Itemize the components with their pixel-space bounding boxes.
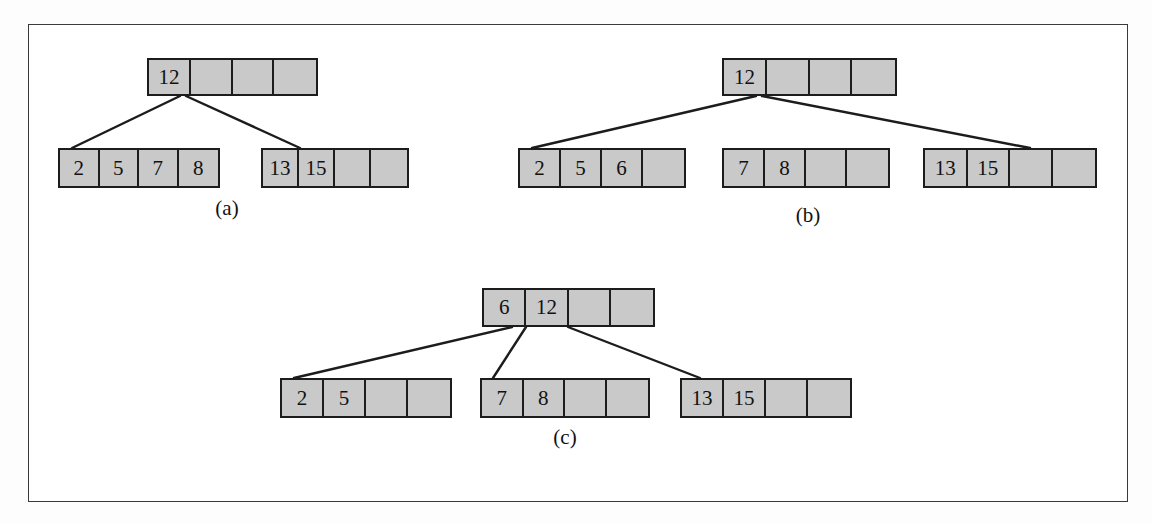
subfigure-label-3: (c) [553,425,576,450]
btree-cell-key-5: 5 [100,150,140,186]
btree-cell-empty [847,150,888,186]
btree-cell-empty [766,380,808,416]
btree-cell-empty [274,60,316,94]
btree-cell-key-13: 13 [682,380,724,416]
btree-cell-empty [767,60,810,94]
btree-cell-key-2: 2 [520,150,561,186]
btree-cell-key-2: 2 [60,150,100,186]
btree-cell-key-15: 15 [968,150,1011,186]
btree-cell-empty [569,290,611,325]
btree-cell-empty [371,150,407,186]
btree-cell-key-7: 7 [139,150,179,186]
btree-cell-empty [335,150,371,186]
btree-cell-key-13: 13 [263,150,299,186]
btree-leaf-node-2-0: 25 [280,378,452,418]
btree-cell-empty [643,150,684,186]
btree-cell-key-6: 6 [484,290,526,325]
btree-cell-key-2: 2 [282,380,324,416]
btree-cell-key-6: 6 [602,150,643,186]
btree-cell-empty [408,380,450,416]
btree-cell-empty [191,60,233,94]
btree-cell-key-8: 8 [179,150,219,186]
btree-cell-empty [810,60,853,94]
btree-cell-empty [565,380,607,416]
btree-cell-empty [1053,150,1096,186]
btree-leaf-node-0-1: 1315 [261,148,409,188]
btree-cell-key-12: 12 [724,60,767,94]
btree-figure: 12257813151225678131561225781315 (a)(b)(… [0,0,1152,524]
btree-cell-empty [607,380,649,416]
btree-root-node-2: 612 [482,288,655,327]
btree-cell-key-15: 15 [724,380,766,416]
btree-cell-key-7: 7 [724,150,765,186]
subfigure-label-1: (a) [215,196,238,221]
btree-root-node-1: 12 [722,58,897,96]
btree-cell-empty [366,380,408,416]
btree-leaf-node-1-1: 78 [722,148,890,188]
btree-cell-key-12: 12 [526,290,568,325]
btree-leaf-node-0-0: 2578 [58,148,220,188]
btree-cell-key-5: 5 [561,150,602,186]
btree-cell-key-13: 13 [925,150,968,186]
btree-root-node-0: 12 [147,58,318,96]
btree-cell-key-8: 8 [765,150,806,186]
btree-cell-empty [852,60,895,94]
btree-cell-key-15: 15 [299,150,335,186]
btree-cell-empty [233,60,275,94]
subfigure-label-2: (b) [796,203,821,228]
btree-cell-empty [1010,150,1053,186]
btree-leaf-node-2-1: 78 [480,378,650,418]
btree-leaf-node-2-2: 1315 [680,378,852,418]
btree-cell-empty [806,150,847,186]
btree-cell-key-12: 12 [149,60,191,94]
btree-cell-empty [611,290,653,325]
btree-leaf-node-1-2: 1315 [923,148,1097,188]
btree-cell-key-5: 5 [324,380,366,416]
btree-cell-key-7: 7 [482,380,524,416]
btree-leaf-node-1-0: 256 [518,148,686,188]
btree-cell-key-8: 8 [524,380,566,416]
btree-cell-empty [808,380,850,416]
